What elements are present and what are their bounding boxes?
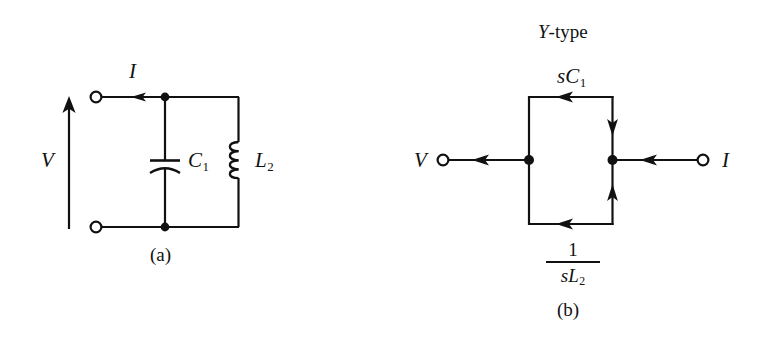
junction-dot-bottom: [161, 223, 170, 232]
fraction-denominator: sL2: [546, 263, 600, 288]
branch-top-subscript: 1: [579, 75, 586, 90]
fraction-numerator: 1: [546, 240, 600, 261]
input-terminal-top: [91, 92, 102, 103]
inductor-L2: [230, 142, 239, 178]
panel-b-title: Y-type: [538, 22, 588, 41]
capacitor-label-C1: C1: [188, 150, 209, 173]
inductor-label-L2: L2: [255, 150, 274, 173]
inductor-subscript: 2: [267, 159, 274, 174]
voltage-label-a: V: [41, 150, 54, 171]
circuit-diagram-svg: [0, 0, 757, 345]
panel-b-circuit: [438, 92, 709, 230]
fraction-denominator-symbol: sL: [561, 265, 579, 286]
junction-dot-top: [161, 93, 170, 102]
panel-b-title-symbol: Y: [538, 21, 549, 42]
input-terminal: [438, 155, 449, 166]
output-terminal: [698, 155, 709, 166]
panel-a-caption: (a): [150, 245, 171, 264]
branch-top-symbol: sC: [557, 64, 579, 88]
panel-b-title-suffix: -type: [549, 21, 588, 42]
fraction-denominator-subscript: 2: [579, 275, 585, 288]
inductor-symbol: L: [255, 148, 267, 172]
output-label-I: I: [722, 150, 729, 171]
branch-bottom-label-fraction: 1 sL2: [546, 240, 600, 288]
panel-b-caption: (b): [557, 300, 579, 319]
current-label-a: I: [129, 61, 136, 82]
capacitor-symbol: C: [188, 148, 202, 172]
capacitor-subscript: 1: [202, 159, 209, 174]
figure-container: V I C1 L2 (a) Y-type sC1 V I 1 sL2 (b): [0, 0, 757, 345]
voltage-arrow: [62, 96, 75, 229]
branch-top-label-sC1: sC1: [557, 66, 586, 89]
node-dot-left: [524, 155, 534, 165]
node-dot-right: [608, 155, 618, 165]
panel-a-circuit: [62, 92, 239, 233]
input-label-V: V: [414, 150, 427, 171]
input-terminal-bottom: [91, 222, 102, 233]
